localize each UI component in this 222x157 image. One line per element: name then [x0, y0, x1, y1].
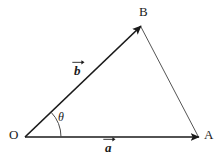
vector-a-letter: a [105, 140, 112, 155]
vector-a-label: a [104, 141, 113, 154]
point-label-o: O [9, 128, 18, 141]
vector-b-letter: b [74, 63, 81, 78]
vector-b-line [25, 26, 141, 137]
vector-diagram-figure: O A B a b θ [0, 0, 222, 157]
point-label-a: A [204, 128, 213, 141]
vector-diagram-canvas [0, 0, 222, 157]
point-label-b: B [139, 5, 148, 18]
segment-b-to-a [141, 27, 198, 136]
theta-angle-label: θ [58, 111, 64, 123]
vector-b-label: b [73, 64, 82, 77]
